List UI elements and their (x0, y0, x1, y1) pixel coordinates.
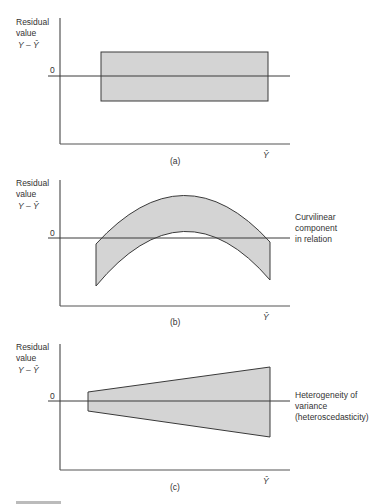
panel-caption: (a) (170, 156, 181, 166)
y-axis-label-formula: Y – Ŷ (18, 201, 40, 211)
y-axis-label-residual: Residual (16, 342, 49, 352)
annotation-line1: Curvilinear (295, 212, 336, 222)
y-axis-label-residual: Residual (16, 178, 49, 188)
y-axis-label-formula: Y – Ŷ (18, 40, 40, 50)
x-axis-label: Ŷ (263, 312, 270, 322)
annotation-line3: in relation (295, 234, 332, 244)
y-axis-label-value: value (16, 28, 37, 38)
x-axis-label: Ŷ (263, 476, 270, 486)
annotation-line2: component (295, 223, 338, 233)
y-axis-label-residual: Residual (16, 17, 49, 27)
annotation-line3: (heteroscedasticity) (295, 412, 369, 422)
zero-label: 0 (50, 391, 55, 401)
y-axis-label-value: value (16, 189, 37, 199)
panel-c: Residual value Y – Ŷ 0 Ŷ (c) Heterogenei… (16, 342, 369, 492)
annotation-line1: Heterogeneity of (295, 390, 358, 400)
panel-a: Residual value Y – Ŷ 0 Ŷ (a) (16, 17, 290, 166)
panel-caption: (c) (170, 482, 180, 492)
panel-b: Residual value Y – Ŷ 0 Ŷ (b) Curvilinear… (16, 178, 338, 327)
zero-label: 0 (50, 65, 55, 75)
curvilinear-band (96, 195, 270, 286)
y-axis-label-formula: Y – Ŷ (18, 365, 40, 375)
residual-plots-figure: Residual value Y – Ŷ 0 Ŷ (a) Residual va… (0, 0, 390, 504)
heteroscedastic-wedge (88, 367, 270, 437)
panel-caption: (b) (170, 317, 181, 327)
x-axis-label: Ŷ (263, 150, 270, 160)
zero-label: 0 (50, 228, 55, 238)
y-axis-label-value: value (16, 353, 37, 363)
annotation-line2: variance (295, 401, 327, 411)
